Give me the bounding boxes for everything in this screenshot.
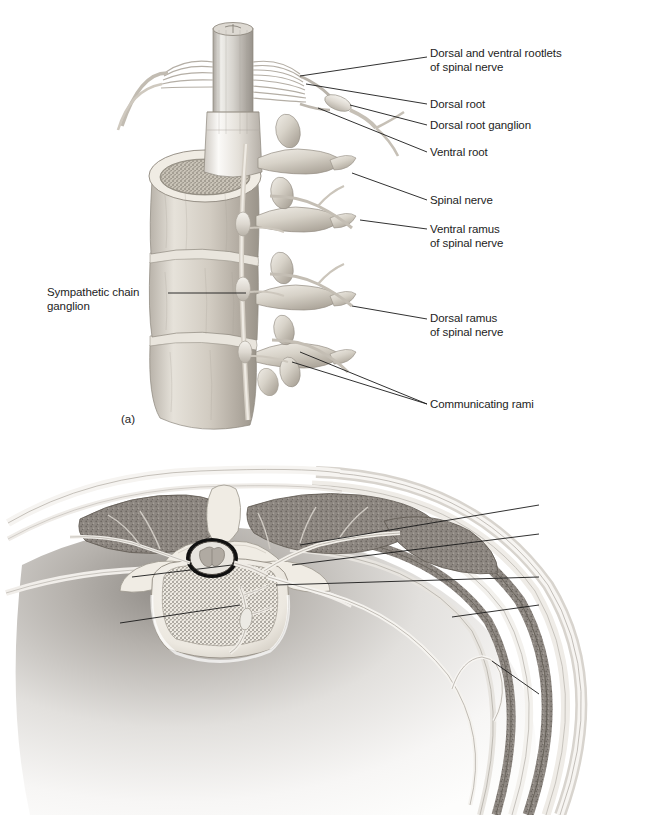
label-dorsal-and-ventral-rootlets: Dorsal and ventral rootlets of spinal ne… (430, 47, 562, 74)
panel-a-vertebrae-view: Dorsal and ventral rootlets of spinal ne… (0, 0, 653, 445)
label-ventral-root: Ventral root (430, 146, 488, 160)
dorsal-root-ganglion-and-rami (256, 76, 404, 389)
anatomy-figure: Dorsal and ventral rootlets of spinal ne… (0, 0, 653, 815)
panel-letter-a: (a) (121, 413, 135, 425)
panel-b-thorax-cross-section: Dorsal ramus Ventral ramus Communicating… (0, 445, 653, 815)
panel-b-illustration (0, 445, 653, 815)
label-sympathetic-chain-ganglion: Sympathetic chain ganglion (47, 286, 139, 313)
label-spinal-nerve: Spinal nerve (430, 194, 493, 208)
label-ventral-ramus-of-spinal-nerve: Ventral ramus of spinal nerve (430, 223, 503, 250)
label-dorsal-root-ganglion: Dorsal root ganglion (430, 119, 531, 133)
label-dorsal-root: Dorsal root (430, 98, 485, 112)
spinal-cord-and-dura (204, 23, 262, 178)
label-communicating-rami: Communicating rami (430, 398, 534, 412)
label-dorsal-ramus-of-spinal-nerve: Dorsal ramus of spinal nerve (430, 312, 503, 339)
